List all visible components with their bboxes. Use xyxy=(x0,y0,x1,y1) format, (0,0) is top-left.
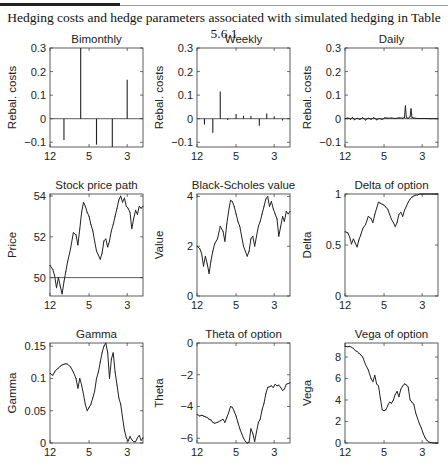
y-tick-label: 52 xyxy=(34,231,46,243)
data-point xyxy=(209,419,210,420)
x-tick-label: 3 xyxy=(271,299,277,311)
data-point xyxy=(362,117,363,118)
data-point xyxy=(436,194,437,195)
chart-title: Weekly xyxy=(225,33,263,45)
data-point xyxy=(96,251,97,252)
data-point xyxy=(434,442,435,443)
data-point xyxy=(81,384,82,385)
data-point xyxy=(62,364,63,365)
data-point xyxy=(81,212,82,213)
data-point xyxy=(385,207,386,208)
data-point xyxy=(432,194,433,195)
data-point xyxy=(239,226,240,227)
data-point xyxy=(391,403,392,404)
data-point xyxy=(415,195,416,196)
data-point xyxy=(405,105,406,106)
y-tick-label: 6 xyxy=(335,372,341,384)
plot-frame xyxy=(345,343,438,443)
data-point xyxy=(65,363,66,364)
data-point xyxy=(197,414,198,415)
data-point xyxy=(252,236,253,237)
y-axis-label: Vega xyxy=(301,379,313,406)
data-point xyxy=(436,443,437,444)
data-point xyxy=(199,248,200,249)
y-tick-label: 4 xyxy=(187,190,193,202)
data-point xyxy=(402,216,403,217)
data-point xyxy=(290,382,291,383)
data-point xyxy=(107,247,108,248)
data-point xyxy=(135,441,136,442)
data-point xyxy=(109,240,110,241)
data-point xyxy=(254,441,255,442)
data-point xyxy=(115,216,116,217)
data-point xyxy=(378,202,379,203)
data-point xyxy=(351,243,352,244)
y-tick-label: −2 xyxy=(180,369,193,381)
data-point xyxy=(384,410,385,411)
data-point xyxy=(230,200,231,201)
data-point xyxy=(100,362,101,363)
data-point xyxy=(376,119,377,120)
y-tick-label: 4 xyxy=(335,394,341,406)
data-point xyxy=(116,208,117,209)
data-point xyxy=(116,384,117,385)
data-point xyxy=(410,116,411,117)
data-point xyxy=(273,387,274,388)
x-tick-label: 3 xyxy=(124,446,130,458)
data-point xyxy=(397,222,398,223)
plot-frame xyxy=(197,48,290,147)
data-point xyxy=(245,441,246,442)
data-point xyxy=(408,202,409,203)
data-point xyxy=(430,118,431,119)
x-tick-label: 12 xyxy=(339,446,351,458)
data-point xyxy=(417,418,418,419)
data-point xyxy=(411,117,412,118)
y-tick-label: 54 xyxy=(34,190,46,202)
data-point xyxy=(421,427,422,428)
data-point xyxy=(199,416,200,417)
data-point xyxy=(58,368,59,369)
data-point xyxy=(260,221,261,222)
y-tick-label: −4 xyxy=(180,400,193,412)
figure-grid: BimonthlyRebal. costs−0.100.10.20.31253W… xyxy=(0,0,448,466)
data-point xyxy=(102,253,103,254)
series-line xyxy=(50,196,143,294)
data-point xyxy=(58,277,59,278)
data-point xyxy=(269,386,270,387)
data-point xyxy=(220,226,221,227)
data-point xyxy=(426,440,427,441)
data-point xyxy=(212,251,213,252)
data-point xyxy=(243,438,244,439)
data-point xyxy=(141,208,142,209)
data-point xyxy=(214,243,215,244)
data-point xyxy=(413,404,414,405)
data-point xyxy=(360,354,361,355)
data-point xyxy=(102,352,103,353)
data-point xyxy=(354,119,355,120)
data-point xyxy=(113,224,114,225)
y-tick-label: 0.5 xyxy=(326,239,341,251)
data-point xyxy=(73,372,74,373)
data-point xyxy=(217,238,218,239)
y-tick-label: 0.2 xyxy=(31,66,46,78)
x-tick-label: 3 xyxy=(271,150,277,162)
data-point xyxy=(404,383,405,384)
data-point xyxy=(129,212,130,213)
data-point xyxy=(410,199,411,200)
series-line xyxy=(50,343,143,442)
data-point xyxy=(384,205,385,206)
plot-frame xyxy=(345,194,438,296)
data-point xyxy=(203,416,204,417)
data-point xyxy=(217,422,218,423)
data-point xyxy=(438,443,439,444)
data-point xyxy=(205,416,206,417)
data-point xyxy=(434,194,435,195)
data-point xyxy=(105,238,106,239)
data-point xyxy=(384,117,385,118)
data-point xyxy=(63,364,64,365)
y-tick-label: 0 xyxy=(187,337,193,349)
data-point xyxy=(94,240,95,241)
data-point xyxy=(350,119,351,120)
data-point xyxy=(286,211,287,212)
data-point xyxy=(203,266,204,267)
